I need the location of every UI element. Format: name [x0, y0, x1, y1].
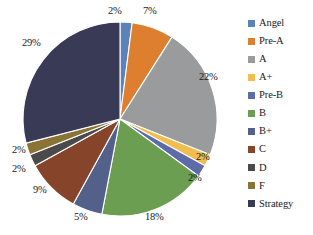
pie-slice-percent-label: 2% — [108, 6, 122, 17]
pie-slice-percent-label: 29% — [22, 38, 41, 49]
legend-color-swatch-icon — [248, 128, 255, 135]
legend-item-angel[interactable]: Angel — [248, 14, 313, 32]
pie-slice-percent-label: 22% — [199, 72, 218, 83]
legend-color-swatch-icon — [248, 110, 255, 117]
pie-slice-percent-label: 2% — [12, 145, 26, 156]
pie-slice-percent-label: 5% — [74, 212, 88, 223]
pie-chart-figure: 2%7%22%2%2%18%5%9%2%2%29% AngelPre-AAA+P… — [0, 0, 313, 235]
legend-item-label: F — [259, 181, 265, 192]
pie-slice-percent-label: 2% — [196, 152, 210, 163]
pie-plot-area — [0, 0, 238, 235]
legend-item-label: C — [259, 144, 266, 155]
legend-item-c[interactable]: C — [248, 141, 313, 159]
legend-item-b[interactable]: B — [248, 104, 313, 122]
legend-color-swatch-icon — [248, 74, 255, 81]
pie-slice-percent-label: 2% — [188, 173, 202, 184]
legend-item-label: B — [259, 108, 266, 119]
legend-item-a-[interactable]: A+ — [248, 68, 313, 86]
legend-item-label: A — [259, 54, 266, 65]
legend-item-label: Angel — [259, 18, 284, 29]
chart-legend: AngelPre-AAA+Pre-BBB+CDFStrategy — [248, 14, 313, 213]
legend-item-b-[interactable]: B+ — [248, 123, 313, 141]
pie-slice-percent-label: 7% — [143, 6, 157, 17]
legend-color-swatch-icon — [248, 146, 255, 153]
legend-item-label: Strategy — [259, 199, 293, 210]
legend-item-label: Pre-B — [259, 90, 283, 101]
legend-item-pre-a[interactable]: Pre-A — [248, 32, 313, 50]
pie-svg — [0, 0, 238, 235]
legend-item-a[interactable]: A — [248, 50, 313, 68]
legend-item-pre-b[interactable]: Pre-B — [248, 86, 313, 104]
pie-slice-percent-label: 9% — [33, 185, 47, 196]
legend-color-swatch-icon — [248, 182, 255, 189]
pie-slice-percent-label: 2% — [12, 164, 26, 175]
legend-item-label: A+ — [259, 72, 272, 83]
legend-color-swatch-icon — [248, 56, 255, 63]
legend-color-swatch-icon — [248, 38, 255, 45]
legend-item-strategy[interactable]: Strategy — [248, 195, 313, 213]
pie-slice-percent-label: 18% — [145, 212, 164, 223]
legend-item-label: D — [259, 163, 266, 174]
legend-item-d[interactable]: D — [248, 159, 313, 177]
legend-color-swatch-icon — [248, 164, 255, 171]
legend-color-swatch-icon — [248, 20, 255, 27]
legend-item-label: B+ — [259, 126, 272, 137]
legend-color-swatch-icon — [248, 200, 255, 207]
legend-color-swatch-icon — [248, 92, 255, 99]
legend-item-label: Pre-A — [259, 36, 284, 47]
legend-item-f[interactable]: F — [248, 177, 313, 195]
